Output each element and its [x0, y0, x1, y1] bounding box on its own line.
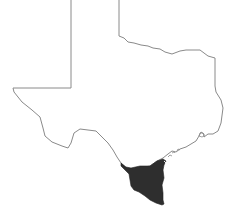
- coastal-islands: [164, 133, 204, 200]
- state-border-west-and-rio-grande: [13, 0, 131, 170]
- highlighted-region-south-texas: [121, 159, 166, 205]
- texas-map: [0, 0, 234, 216]
- gulf-coastline: [131, 131, 218, 170]
- state-border-east-and-red-river: [119, 0, 223, 131]
